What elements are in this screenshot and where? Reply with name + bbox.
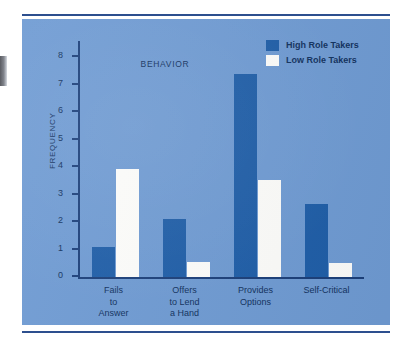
y-tick: 1 [72,248,78,250]
panel-top-rule [22,14,390,16]
legend-entry-low: Low Role Takers [266,55,359,66]
bar-low [258,180,281,277]
y-tick-label: 5 [58,133,63,142]
legend-label-high: High Role Takers [286,41,359,50]
y-tick: 5 [72,138,78,140]
y-tick-label: 1 [58,243,63,252]
bar-low [116,169,139,277]
y-tick-label: 0 [58,271,63,280]
legend-entry-high: High Role Takers [266,40,359,51]
y-tick: 3 [72,193,78,195]
bar-high [163,219,186,277]
bar-high [92,247,115,277]
y-tick: 0 [72,275,78,277]
x-category-label: ProvidesOptions [215,285,297,308]
y-tick-label: 3 [58,188,63,197]
y-tick: 6 [72,110,78,112]
plot-area: 012345678 [78,41,364,279]
y-tick-label: 2 [58,216,63,225]
legend-swatch-icon-high [266,40,279,51]
x-category-line: Options [215,297,297,309]
x-axis-line [78,277,364,279]
y-tick: 4 [72,165,78,167]
chart-legend: High Role Takers Low Role Takers [266,40,359,66]
y-axis-title: FREQUENCY [48,112,57,169]
y-tick: 2 [72,220,78,222]
x-axis-category-labels: FailstoAnswerOffersto Lenda HandProvides… [78,281,364,325]
y-tick: 8 [72,55,78,57]
y-tick-label: 4 [58,161,63,170]
x-category-line: Offers [144,285,226,297]
x-category-line: Answer [73,308,155,320]
x-category-line: to Lend [144,297,226,309]
x-category-line: Provides [215,285,297,297]
bar-high [305,204,328,277]
page-canvas: FREQUENCY 012345678 FailstoAnswerOfferst… [0,0,407,351]
x-category-label: Self-Critical [286,285,368,297]
y-tick-label: 6 [58,106,63,115]
bar-low [187,262,210,277]
x-category-line: to [73,297,155,309]
x-category-line: Fails [73,285,155,297]
panel-bottom-rule [22,331,390,333]
y-tick-label: 7 [58,78,63,87]
bar-low [329,263,352,277]
bar-group-container [80,41,364,277]
chart-panel: FREQUENCY 012345678 FailstoAnswerOfferst… [22,19,390,325]
legend-swatch-icon-low [266,55,279,66]
page-edge-artifact [0,56,7,86]
legend-label-low: Low Role Takers [286,56,357,65]
y-tick: 7 [72,83,78,85]
x-category-line: a Hand [144,308,226,320]
x-category-label: Offersto Lenda Hand [144,285,226,320]
x-category-label: FailstoAnswer [73,285,155,320]
bar-high [234,74,257,277]
x-category-line: Self-Critical [286,285,368,297]
